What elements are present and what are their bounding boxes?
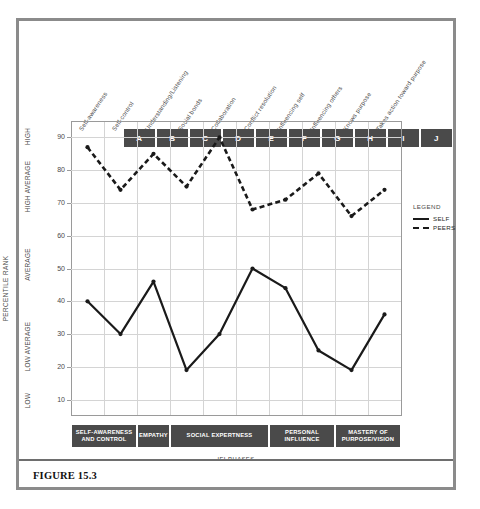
y-axis-title: PERCENTILE RANK	[2, 248, 9, 328]
figure-frame: Self-awarenessSelf-controlUnderstanding/…	[16, 18, 456, 490]
y-tick-label: 20	[39, 363, 65, 370]
data-point-peers-j	[382, 188, 386, 192]
phase-box-2: EMPATHY	[138, 425, 169, 447]
series-line-self	[88, 269, 385, 371]
y-band-label: HIGH AVERAGE	[24, 156, 31, 216]
data-point-self-j	[382, 312, 386, 316]
data-point-peers-f	[250, 207, 254, 211]
data-point-peers-h	[316, 171, 320, 175]
data-point-self-b	[118, 332, 122, 336]
caption-divider	[19, 459, 453, 461]
phase-box-3: SOCIAL EXPERTNESS	[171, 425, 268, 447]
y-tick-label: 80	[39, 166, 65, 173]
plot-area	[71, 121, 401, 416]
y-band-label: AVERAGE	[24, 235, 31, 295]
data-point-self-h	[316, 348, 320, 352]
legend: LEGEND SELFPEERS	[413, 203, 473, 232]
phase-box-1: SELF-AWARENESS AND CONTROL	[72, 425, 136, 447]
y-tick-label: 60	[39, 232, 65, 239]
data-point-self-f	[250, 266, 254, 270]
phase-box-4: PERSONAL INFLUENCE	[270, 425, 334, 447]
y-tick-label: 90	[39, 133, 65, 140]
legend-entries: SELFPEERS	[413, 214, 473, 232]
phase-box-5: MASTERY OF PURPOSE/VISION	[336, 425, 400, 447]
legend-entry-peers: PEERS	[413, 223, 473, 232]
data-point-self-e	[217, 332, 221, 336]
column-letter-j: J	[421, 129, 452, 147]
data-point-self-d	[184, 368, 188, 372]
y-tick-label: 50	[39, 265, 65, 272]
data-point-self-c	[151, 280, 155, 284]
data-point-peers-i	[349, 214, 353, 218]
legend-title: LEGEND	[413, 203, 473, 210]
data-point-self-a	[85, 299, 89, 303]
y-tick-label: 30	[39, 330, 65, 337]
data-point-self-i	[349, 368, 353, 372]
legend-swatch-self	[413, 218, 429, 220]
y-tick-label: 40	[39, 297, 65, 304]
data-point-peers-g	[283, 198, 287, 202]
legend-label-peers: PEERS	[433, 224, 455, 231]
figure-caption: FIGURE 15.3	[33, 470, 97, 481]
y-band-label: LOW	[24, 371, 31, 431]
series-line-peers	[88, 137, 385, 216]
y-tick-label: 10	[39, 396, 65, 403]
legend-label-self: SELF	[433, 215, 450, 222]
grid-vline	[401, 121, 402, 416]
data-point-peers-a	[85, 145, 89, 149]
legend-swatch-peers	[413, 227, 429, 229]
data-point-peers-b	[118, 188, 122, 192]
data-point-self-g	[283, 286, 287, 290]
y-band-label: LOW AVERAGE	[24, 317, 31, 377]
legend-entry-self: SELF	[413, 214, 473, 223]
data-point-peers-c	[151, 152, 155, 156]
y-tick-label: 70	[39, 199, 65, 206]
data-point-peers-d	[184, 184, 188, 188]
series-canvas	[71, 121, 401, 416]
data-point-peers-e	[217, 135, 221, 139]
